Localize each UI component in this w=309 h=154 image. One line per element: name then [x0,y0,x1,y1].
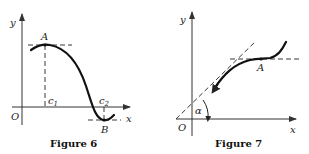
point-b-label: B [100,124,108,135]
angle-arc [203,100,208,119]
figures-canvas: y x O A B c1 c2 Figure 6 y x O A α Figur… [0,0,309,154]
point-a-marker [259,57,262,60]
function-curve [31,45,114,121]
figure-6: y x O A B c1 c2 Figure 6 [9,14,132,149]
point-a-marker [43,43,46,46]
point-a-label: A [40,31,48,42]
x-axis-label: x [290,124,296,135]
y-axis-label: y [9,17,16,28]
origin-label: O [178,122,186,133]
angle-alpha-label: α [195,105,202,116]
x-axis-label: x [126,113,132,124]
c1-label: c1 [48,95,58,108]
figure-6-caption: Figure 6 [50,138,97,149]
tangent-line [176,41,256,119]
origin-label: O [11,111,19,122]
c2-label: c2 [99,95,110,108]
figure-7: y x O A α Figure 7 [176,12,300,149]
point-a-label: A [256,62,264,73]
figure-7-caption: Figure 7 [215,138,262,149]
y-axis-label: y [179,14,186,25]
point-b-marker [102,118,105,121]
function-curve [214,42,286,89]
